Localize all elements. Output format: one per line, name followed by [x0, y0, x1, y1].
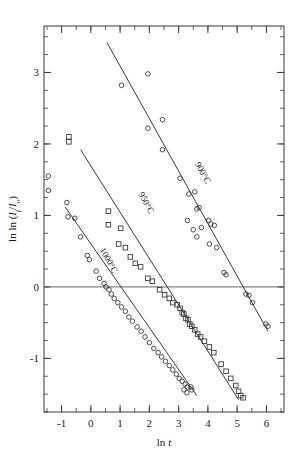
data-point-circle: [185, 390, 190, 395]
fit-line: [65, 207, 197, 396]
data-point-square: [133, 261, 138, 266]
data-point-square: [224, 369, 229, 374]
data-point-square: [233, 383, 238, 388]
data-point-circle: [187, 192, 192, 197]
data-point-circle: [135, 325, 140, 330]
data-point-circle: [159, 355, 164, 360]
data-point-square: [207, 345, 212, 350]
series-label-1000c: 1000°C: [98, 246, 120, 275]
data-point-square: [157, 287, 162, 292]
series-900c: 900°C: [107, 42, 270, 331]
x-tick-label: 2: [147, 417, 153, 429]
x-tick-label: 3: [176, 417, 182, 429]
data-point-square: [128, 255, 133, 260]
data-point-circle: [174, 372, 179, 377]
minor-ticks: [44, 26, 284, 412]
data-point-circle: [177, 376, 182, 381]
data-point-circle: [112, 296, 117, 301]
x-tick-label: 0: [88, 417, 94, 429]
data-point-circle: [185, 218, 190, 223]
y-tick-label: 3: [34, 66, 40, 78]
fit-line: [81, 150, 239, 400]
data-point-square: [67, 140, 72, 145]
y-tick-label: -1: [30, 352, 39, 364]
data-point-circle: [151, 346, 156, 351]
data-point-square: [211, 350, 216, 355]
data-point-square: [150, 279, 155, 284]
data-point-circle: [167, 363, 172, 368]
data-point-circle: [123, 309, 128, 314]
data-point-circle: [139, 329, 144, 334]
data-point-circle: [130, 319, 135, 324]
data-point-circle: [46, 174, 51, 179]
data-point-circle: [160, 117, 165, 122]
series-label-900c: 900°C: [193, 160, 213, 185]
data-point-square: [123, 245, 128, 250]
data-point-square: [162, 292, 167, 297]
data-point-circle: [115, 300, 120, 305]
chart-figure: -10123456-10123900°C950°C1000°Cln tln ln…: [0, 0, 298, 466]
x-axis-title: ln t: [157, 436, 172, 448]
data-point-circle: [143, 335, 148, 340]
series-label-950c: 950°C: [136, 190, 156, 215]
major-ticks: -10123456-10123: [30, 26, 284, 429]
plot-frame: [44, 26, 284, 412]
series-1000c: 1000°C: [46, 174, 197, 396]
x-tick-label: 6: [264, 417, 270, 429]
series-950c: 950°C: [67, 134, 246, 400]
data-point-square: [67, 134, 72, 139]
data-point-circle: [78, 235, 83, 240]
x-tick-label: -1: [57, 417, 66, 429]
data-point-circle: [146, 72, 151, 77]
data-point-circle: [46, 188, 51, 193]
data-point-circle: [199, 225, 204, 230]
data-point-square: [228, 376, 233, 381]
y-tick-label: 0: [34, 281, 40, 293]
fit-line: [107, 42, 268, 331]
data-point-circle: [170, 368, 175, 373]
data-point-circle: [163, 359, 168, 364]
data-point-square: [106, 209, 111, 214]
x-tick-label: 4: [205, 417, 211, 429]
data-point-square: [116, 242, 121, 247]
data-point-circle: [87, 257, 92, 262]
data-point-square: [146, 276, 151, 281]
data-point-circle: [182, 388, 187, 393]
y-axis-title: ln ln (If/Io): [6, 196, 22, 242]
y-tick-label: 1: [34, 209, 40, 221]
x-tick-label: 1: [117, 417, 123, 429]
y-tick-label: 2: [34, 138, 40, 150]
data-point-circle: [214, 245, 219, 250]
data-point-circle: [180, 379, 185, 384]
data-point-circle: [178, 176, 183, 181]
data-point-square: [219, 362, 224, 367]
data-point-circle: [94, 269, 99, 274]
data-point-circle: [192, 190, 197, 195]
data-point-square: [118, 226, 123, 231]
data-point-circle: [194, 235, 199, 240]
data-point-circle: [207, 242, 212, 247]
data-point-circle: [107, 287, 112, 292]
data-point-circle: [146, 126, 151, 131]
data-point-circle: [127, 315, 132, 320]
data-point-square: [138, 265, 143, 270]
data-point-circle: [160, 147, 165, 152]
data-point-circle: [156, 350, 161, 355]
data-point-circle: [147, 340, 152, 345]
x-tick-label: 5: [234, 417, 240, 429]
weibull-scatter-plot: -10123456-10123900°C950°C1000°Cln tln ln…: [0, 0, 298, 466]
data-point-circle: [119, 83, 124, 88]
data-point-circle: [66, 215, 71, 220]
data-point-circle: [97, 276, 102, 281]
data-point-circle: [65, 200, 70, 205]
data-point-circle: [191, 227, 196, 232]
data-point-square: [106, 222, 111, 227]
data-point-circle: [119, 305, 124, 310]
data-point-circle: [109, 292, 114, 297]
